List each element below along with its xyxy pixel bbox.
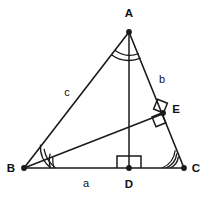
- vertex-dot-b: [21, 165, 27, 171]
- vertex-dot-d: [126, 165, 132, 171]
- geometry-canvas: A B C D E c b a: [0, 0, 205, 197]
- point-label-c: C: [192, 162, 200, 174]
- angle-arc-a-outer: [115, 50, 139, 55]
- point-label-e: E: [172, 103, 180, 115]
- side-labels: c b a: [64, 73, 165, 189]
- angle-arcs-at-c: [162, 150, 178, 168]
- point-labels: A B C D E: [7, 7, 200, 190]
- angle-arc-c-3: [162, 150, 175, 168]
- side-label-a: a: [83, 177, 90, 189]
- vertex-dot-c: [181, 165, 187, 171]
- point-label-d: D: [125, 178, 133, 190]
- side-label-b: b: [159, 73, 165, 85]
- angle-arc-a-right: [129, 58, 141, 60]
- angle-arcs-at-a: [112, 50, 141, 60]
- geometry-figure: A B C D E c b a: [0, 0, 205, 197]
- vertex-dot-a: [126, 29, 132, 35]
- point-label-a: A: [125, 7, 133, 19]
- vertex-dots: [21, 29, 187, 171]
- vertex-dot-e: [160, 110, 166, 116]
- side-label-c: c: [64, 86, 70, 98]
- altitude-segments: [24, 32, 165, 168]
- point-label-b: B: [7, 162, 15, 174]
